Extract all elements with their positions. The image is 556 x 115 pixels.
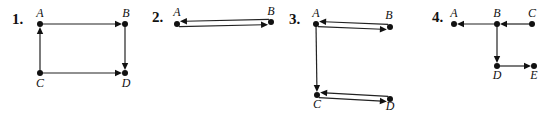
diagram-1: 1. ABCD: [12, 6, 131, 90]
node-label: D: [385, 99, 395, 113]
node-label: B: [122, 6, 130, 20]
node-label: D: [121, 76, 131, 90]
arrowhead-icon: [261, 22, 268, 28]
diagram-4-graph: ABCDE: [449, 6, 538, 82]
diagram-number: 2.: [152, 9, 164, 25]
arrowhead-icon: [320, 90, 327, 96]
edge-A-C: [314, 26, 320, 92]
node-B: [122, 21, 128, 27]
node-label: A: [449, 6, 458, 20]
arrowhead-icon: [500, 21, 507, 27]
arrowhead-icon: [314, 85, 320, 92]
arrowhead-icon: [122, 63, 128, 70]
edge-C-D: [42, 70, 122, 76]
edge-A-B: [318, 26, 387, 32]
edge-B-D: [122, 26, 128, 70]
edge-C-A: [37, 27, 43, 71]
diagram-4: 4. ABCDE: [432, 6, 538, 82]
node-label: C: [36, 76, 45, 90]
diagram-number: 4.: [432, 9, 444, 25]
edge-B-A: [319, 19, 388, 25]
diagram-3: 3. ABCD: [289, 6, 395, 113]
node-label: B: [385, 8, 393, 22]
diagram-2-graph: AB: [172, 4, 275, 28]
diagram-2: 2. AB: [152, 4, 275, 28]
node-A: [451, 21, 457, 27]
diagram-1-graph: ABCD: [35, 6, 130, 90]
node-B: [387, 24, 393, 30]
edge-D-E: [499, 63, 531, 69]
arrowhead-icon: [380, 26, 387, 32]
node-A: [37, 21, 43, 27]
edge-C-D: [319, 98, 387, 105]
diagram-3-graph: ABCD: [311, 6, 394, 113]
node-label: B: [267, 4, 275, 18]
node-label: E: [529, 68, 538, 82]
diagram-number: 1.: [12, 11, 24, 27]
arrowhead-icon: [494, 56, 500, 63]
node-B: [268, 19, 274, 25]
edge-B-A: [457, 21, 495, 27]
edge-D-C: [320, 90, 388, 97]
node-B: [494, 21, 500, 27]
node-A: [313, 21, 319, 27]
edge-B-A: [180, 18, 269, 24]
node-A: [174, 21, 180, 27]
arrowhead-icon: [180, 18, 187, 24]
edge-A-B: [179, 22, 268, 28]
node-label: A: [35, 6, 44, 20]
node-label: A: [172, 5, 181, 19]
graph-diagrams: 1. ABCD 2. AB 3. ABCD 4. ABCDE: [0, 0, 556, 115]
node-C: [529, 21, 535, 27]
arrowhead-icon: [115, 21, 122, 27]
node-label: C: [528, 6, 537, 20]
node-label: A: [311, 6, 320, 20]
edge-B-D: [494, 26, 500, 63]
edge-A-B: [42, 21, 122, 27]
node-label: C: [313, 97, 322, 111]
node-label: B: [493, 6, 501, 20]
arrowhead-icon: [319, 19, 326, 25]
arrowhead-icon: [37, 27, 43, 34]
node-label: D: [492, 68, 502, 82]
edge-C-B: [500, 21, 530, 27]
arrowhead-icon: [457, 21, 464, 27]
diagram-number: 3.: [289, 11, 301, 27]
